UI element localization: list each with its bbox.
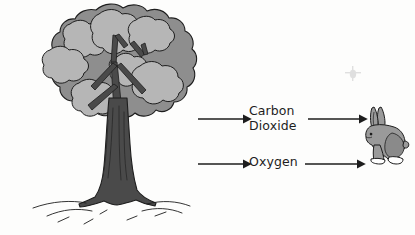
scan-smudge (0, 0, 415, 235)
oxygen-label: Oxygen (249, 155, 298, 170)
diagram-canvas: Carbon Dioxide Oxygen (0, 0, 415, 235)
carbon-dioxide-label-line-2: Dioxide (249, 119, 297, 134)
carbon-dioxide-label-line-1: Carbon (249, 104, 297, 119)
carbon-dioxide-label: Carbon Dioxide (249, 104, 297, 134)
